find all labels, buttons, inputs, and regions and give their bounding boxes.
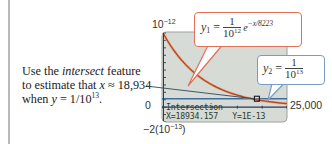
y2-fraction: 11013 bbox=[285, 57, 303, 80]
y2-lhs: y2 bbox=[263, 61, 272, 75]
denominator: 1013 bbox=[285, 69, 303, 80]
equals-sign: = bbox=[210, 20, 223, 34]
y1-fraction: 11012 bbox=[223, 16, 241, 39]
y-min-label: −2(10−13) bbox=[143, 123, 186, 135]
callout-y1-equation: y1 = 11012 e−x/8223 bbox=[194, 12, 302, 47]
den-base: 10 bbox=[223, 27, 234, 39]
den-exponent: 13 bbox=[296, 68, 303, 76]
y-min-prefix: −2(10 bbox=[143, 123, 170, 135]
exp-power: −x/8223 bbox=[248, 19, 273, 28]
x-max-label: 25,000 bbox=[290, 99, 322, 111]
denominator: 1012 bbox=[223, 28, 241, 39]
y-max-base: 10 bbox=[152, 18, 164, 30]
y-max-label: 10−12 bbox=[152, 18, 176, 30]
callout-y2-equation: y2 = 11013 bbox=[257, 55, 325, 85]
equals-sign: = bbox=[272, 61, 285, 75]
den-base: 10 bbox=[285, 68, 296, 80]
screen-result-text: X=18934.157 Y=1E-13 bbox=[166, 111, 265, 121]
y-max-exponent: −12 bbox=[164, 18, 176, 25]
y-min-exponent: −13 bbox=[170, 123, 182, 130]
y1-exponential: e−x/8223 bbox=[241, 22, 273, 33]
x-min-label: 0 bbox=[145, 99, 151, 111]
y-min-suffix: ) bbox=[182, 123, 186, 135]
y1-lhs: y1 bbox=[201, 20, 210, 34]
